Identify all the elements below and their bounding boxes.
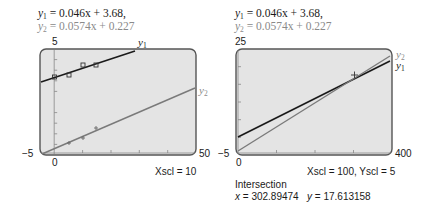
right-screen bbox=[236, 49, 392, 155]
graph-canvas bbox=[0, 0, 429, 209]
left-screen bbox=[40, 49, 196, 155]
